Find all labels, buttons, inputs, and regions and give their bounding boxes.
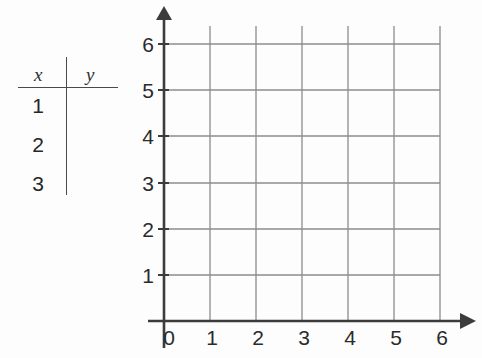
coordinate-grid[interactable]: 1 2 3 4 5 6 0 1 2 3 4 5 6 [140, 0, 482, 358]
up-arrow-icon [156, 6, 172, 20]
ytick-label-6: 6 [142, 33, 154, 56]
right-arrow-icon [460, 313, 476, 329]
ytick-label-5: 5 [142, 79, 154, 102]
ytick-label-4: 4 [142, 125, 154, 148]
table-cell-x-row2[interactable]: 2 [18, 134, 58, 155]
y-axis [156, 6, 172, 348]
xy-value-table: x y 1 2 3 [0, 0, 140, 210]
ytick-label-1: 1 [142, 264, 154, 287]
xtick-label-5: 5 [390, 326, 402, 349]
x-axis [148, 313, 476, 329]
x-axis-tick-labels: 0 1 2 3 4 5 6 [163, 326, 448, 349]
table-header-y: y [86, 65, 94, 84]
table-cell-x-row3[interactable]: 3 [18, 173, 58, 194]
xtick-label-1: 1 [206, 326, 218, 349]
ytick-label-3: 3 [142, 172, 154, 195]
table-column-divider [66, 57, 67, 195]
xtick-label-3: 3 [298, 326, 310, 349]
coordinate-grid-svg: 1 2 3 4 5 6 0 1 2 3 4 5 6 [140, 0, 482, 358]
table-header-x: x [34, 65, 42, 84]
table-cell-x-row1[interactable]: 1 [18, 95, 58, 116]
vertical-gridlines [210, 26, 440, 321]
worksheet-figure: x y 1 2 3 [0, 0, 482, 358]
ytick-label-2: 2 [142, 218, 154, 241]
xtick-label-0: 0 [163, 326, 175, 349]
xtick-label-4: 4 [344, 326, 356, 349]
table-header-rule [18, 87, 118, 88]
xtick-label-6: 6 [436, 326, 448, 349]
y-axis-tick-labels: 1 2 3 4 5 6 [142, 33, 154, 287]
xtick-label-2: 2 [252, 326, 264, 349]
